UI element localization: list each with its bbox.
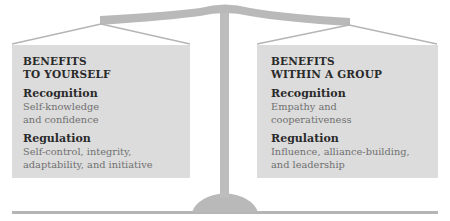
left-regulation-line1: Self-control, integrity,: [23, 145, 180, 158]
left-recognition-line1: Self-knowledge: [23, 100, 180, 113]
left-pan-box: BENEFITS TO YOURSELF Recognition Self-kn…: [12, 45, 190, 178]
right-recognition-heading: Recognition: [271, 87, 428, 100]
right-pan-title-line2: WITHIN A GROUP: [271, 68, 428, 81]
right-recognition-line1: Empathy and: [271, 100, 428, 113]
left-recognition-line2: and confidence: [23, 113, 180, 126]
left-pan-title-line2: TO YOURSELF: [23, 68, 180, 81]
scale-pole: [220, 8, 229, 198]
left-pan-title-line1: BENEFITS: [23, 55, 180, 68]
right-regulation-body: Influence, alliance-building, and leader…: [271, 145, 428, 171]
right-pan-title: BENEFITS WITHIN A GROUP: [271, 55, 428, 81]
left-recognition-body: Self-knowledge and confidence: [23, 100, 180, 126]
right-recognition-body: Empathy and cooperativeness: [271, 100, 428, 126]
left-pan-string-right: [101, 24, 190, 44]
right-regulation-heading: Regulation: [271, 132, 428, 145]
left-regulation-line2: adaptability, and initiative: [23, 158, 180, 171]
right-pan-string-left: [257, 25, 349, 44]
right-regulation-line1: Influence, alliance-building,: [271, 145, 428, 158]
left-regulation-body: Self-control, integrity, adaptability, a…: [23, 145, 180, 171]
right-pan-string-right: [349, 25, 437, 44]
left-recognition-heading: Recognition: [23, 87, 180, 100]
right-pan-title-line1: BENEFITS: [271, 55, 428, 68]
left-pan-title: BENEFITS TO YOURSELF: [23, 55, 180, 81]
right-pan-box: BENEFITS WITHIN A GROUP Recognition Empa…: [257, 45, 438, 178]
left-pan-string-left: [12, 24, 101, 44]
right-recognition-line2: cooperativeness: [271, 113, 428, 126]
left-regulation-heading: Regulation: [23, 132, 180, 145]
right-regulation-line2: and leadership: [271, 158, 428, 171]
